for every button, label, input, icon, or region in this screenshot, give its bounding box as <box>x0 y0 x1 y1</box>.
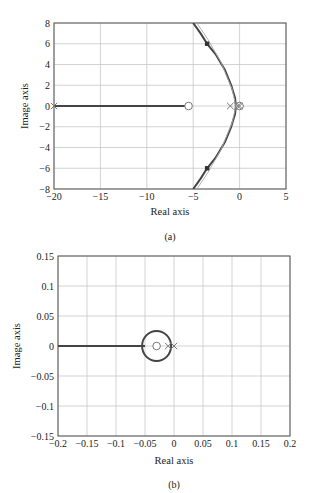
x-tick-label: −0.05 <box>133 438 156 449</box>
x-axis-label: Real axis <box>155 455 194 466</box>
x-tick-label: −15 <box>93 191 109 202</box>
x-tick-label: −0.15 <box>75 438 98 449</box>
chart-b: −0.2−0.15−0.1−0.0500.050.10.150.2−0.15−0… <box>11 251 296 492</box>
y-tick-label: −0.05 <box>31 371 54 382</box>
y-tick-label: −4 <box>39 142 50 153</box>
y-tick-label: 0 <box>49 341 54 352</box>
y-axis-label: Image axis <box>19 83 30 129</box>
y-tick-label: 0.1 <box>42 281 55 292</box>
x-tick-label: −5 <box>188 191 199 202</box>
y-tick-label: 0 <box>45 101 50 112</box>
y-tick-label: −2 <box>39 121 50 132</box>
closed-loop-pole-marker <box>205 166 209 170</box>
y-tick-label: −8 <box>39 184 50 195</box>
y-tick-label: −6 <box>39 163 50 174</box>
x-tick-label: 0.15 <box>252 438 270 449</box>
x-tick-label: 0.1 <box>226 438 239 449</box>
x-tick-label: 0.05 <box>194 438 212 449</box>
root-locus-figure: −20−15−10−505−8−6−4−202468Real axisImage… <box>0 0 310 493</box>
x-tick-label: 0.2 <box>284 438 297 449</box>
x-tick-label: 0 <box>172 438 177 449</box>
y-tick-label: −0.1 <box>36 401 54 412</box>
y-axis-label: Image axis <box>11 323 22 369</box>
y-tick-label: 2 <box>45 80 50 91</box>
zero-marker <box>153 342 161 350</box>
figure-caption: (b) <box>168 479 180 491</box>
x-tick-label: −0.1 <box>107 438 125 449</box>
zero-marker <box>185 102 193 110</box>
figure-caption: (a) <box>164 231 175 243</box>
x-tick-label: −10 <box>139 191 155 202</box>
y-tick-label: 6 <box>45 38 50 49</box>
x-tick-label: 0 <box>237 191 242 202</box>
x-tick-label: 5 <box>284 191 289 202</box>
y-tick-label: 0.05 <box>37 311 55 322</box>
y-tick-label: 8 <box>45 18 50 29</box>
y-tick-label: 0.15 <box>37 251 55 262</box>
x-axis-label: Real axis <box>151 206 190 217</box>
y-tick-label: 4 <box>45 59 50 70</box>
chart-a: −20−15−10−505−8−6−4−202468Real axisImage… <box>19 18 289 244</box>
closed-loop-pole-marker <box>205 42 209 46</box>
y-tick-label: −0.15 <box>31 431 54 442</box>
